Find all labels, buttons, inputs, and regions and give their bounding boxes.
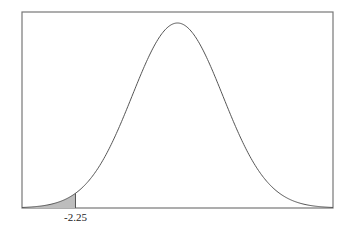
shaded-tail-area — [22, 193, 76, 208]
normal-curve-chart: -2.25 — [0, 0, 357, 235]
plot-frame — [22, 12, 333, 208]
cutoff-label: -2.25 — [64, 211, 87, 223]
normal-curve — [22, 23, 333, 207]
